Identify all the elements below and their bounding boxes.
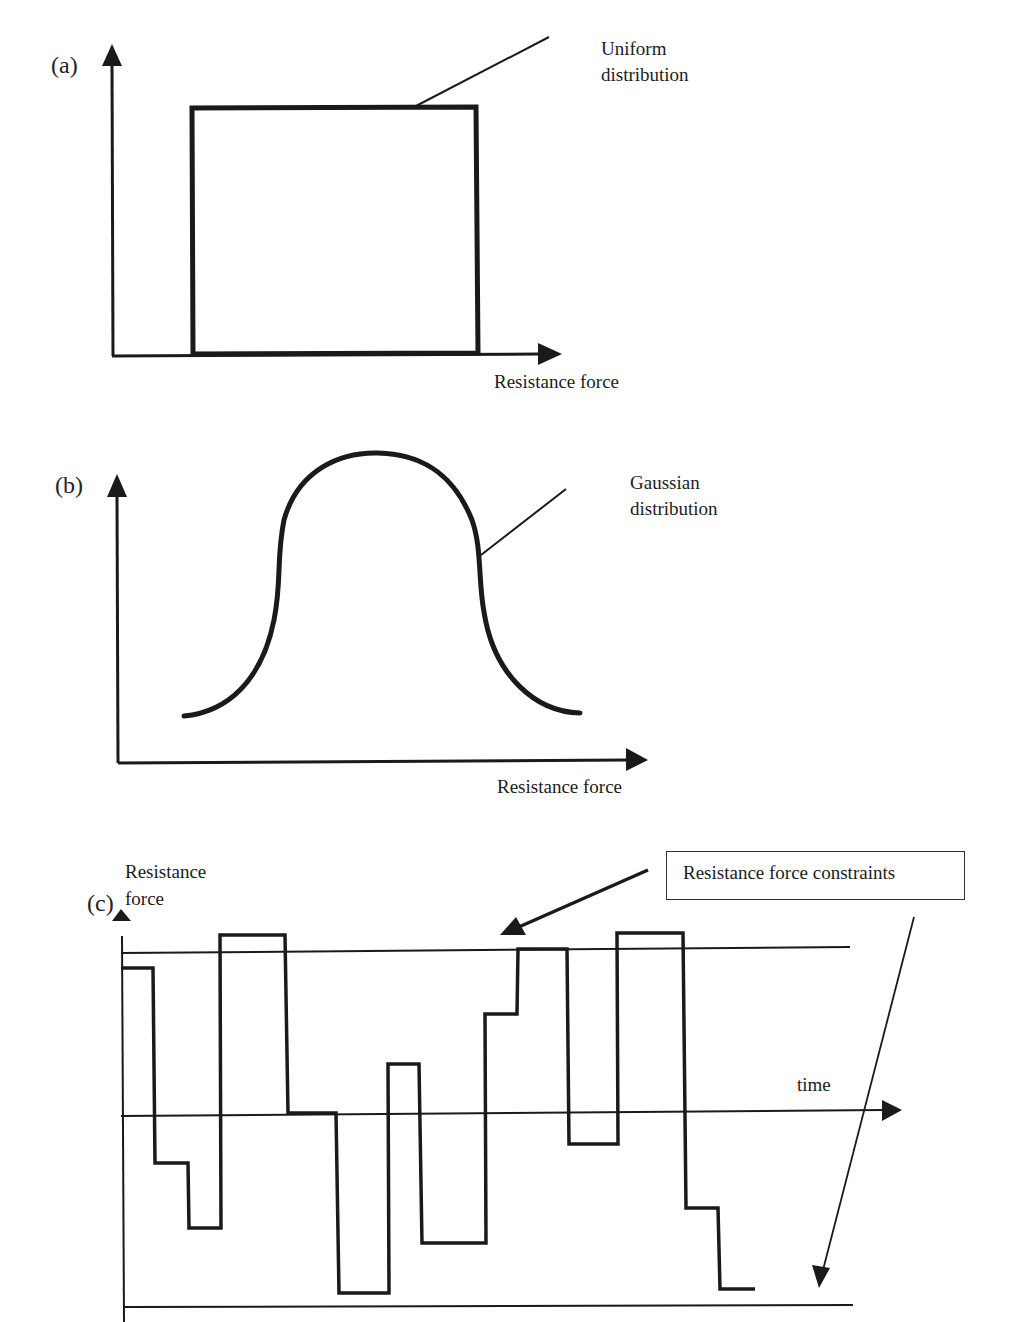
y-axis-arrowhead-icon	[102, 44, 122, 66]
uniform-annotation-leader-line	[416, 37, 549, 106]
x-axis	[118, 760, 628, 763]
time-axis	[121, 1110, 884, 1116]
figure-canvas	[0, 0, 1012, 1322]
time-axis-arrowhead-icon	[882, 1100, 902, 1121]
panel-b-tag: (b)	[55, 472, 83, 499]
panel-b-gaussian-chart	[107, 453, 648, 771]
y-axis-arrowhead-icon	[112, 909, 131, 921]
panel-c-y-axis-label-line2: force	[125, 887, 164, 910]
constraint-label-box: Resistance force constraints	[666, 851, 965, 900]
panel-c-y-axis-label-line1: Resistance	[125, 860, 206, 883]
panel-a-uniform-chart	[102, 37, 562, 365]
gaussian-annotation-line2: distribution	[630, 497, 718, 520]
time-axis-label: time	[797, 1073, 831, 1096]
uniform-annotation-line2: distribution	[601, 63, 689, 86]
panel-c-step-signal-chart	[112, 870, 914, 1322]
y-axis-arrowhead-icon	[107, 474, 127, 497]
constraint-arrowhead-lower-icon	[812, 1265, 830, 1288]
uniform-annotation-line1: Uniform	[601, 37, 666, 60]
panel-a-tag: (a)	[51, 52, 78, 79]
constraint-arrow-lower	[823, 917, 914, 1270]
y-axis	[112, 64, 113, 356]
panel-b-x-axis-label: Resistance force	[497, 775, 622, 798]
y-axis	[122, 936, 124, 1322]
gaussian-annotation-leader-line	[481, 489, 566, 555]
y-axis	[117, 496, 118, 763]
x-axis-arrowhead-icon	[626, 748, 648, 771]
panel-c-tag: (c)	[87, 890, 114, 917]
constraint-label-text: Resistance force constraints	[683, 862, 895, 883]
uniform-distribution-rectangle	[192, 107, 478, 354]
gaussian-annotation-line1: Gaussian	[630, 471, 700, 494]
panel-a-x-axis-label: Resistance force	[494, 370, 619, 393]
gaussian-distribution-curve	[184, 453, 580, 716]
x-axis-arrowhead-icon	[538, 343, 562, 365]
upper-constraint-line	[121, 947, 850, 953]
lower-constraint-line	[124, 1305, 853, 1307]
constraint-arrow-upper	[512, 870, 648, 930]
